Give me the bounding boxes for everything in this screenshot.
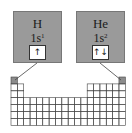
- table-cell: [87, 98, 93, 105]
- table-cell: [62, 118, 68, 125]
- table-cell: [106, 112, 112, 119]
- table-cell: [43, 112, 49, 119]
- table-cell: [81, 118, 87, 125]
- table-cell: [17, 112, 23, 119]
- table-cell: [94, 118, 100, 125]
- table-cell: [55, 105, 61, 112]
- table-cell: [68, 112, 74, 119]
- table-cell: [94, 112, 100, 119]
- table-cell: [113, 112, 119, 119]
- table-cell: [87, 84, 93, 91]
- table-cell: [49, 118, 55, 125]
- table-cell: [62, 112, 68, 119]
- table-cell: [30, 112, 36, 119]
- table-cell: [11, 91, 17, 98]
- table-cell: [68, 98, 74, 105]
- table-cell: [100, 118, 106, 125]
- table-cell: [49, 112, 55, 119]
- cell-he: [119, 77, 125, 84]
- table-cell: [55, 112, 61, 119]
- table-cell: [11, 118, 17, 125]
- table-cell: [36, 105, 42, 112]
- table-cell: [75, 112, 81, 119]
- table-cell: [119, 98, 125, 105]
- table-cell: [81, 105, 87, 112]
- table-cell: [11, 112, 17, 119]
- table-cell: [24, 98, 30, 105]
- table-cell: [30, 98, 36, 105]
- table-cell: [100, 105, 106, 112]
- table-cell: [36, 118, 42, 125]
- table-cell: [49, 98, 55, 105]
- table-cell: [106, 98, 112, 105]
- table-cell: [106, 84, 112, 91]
- table-cell: [100, 91, 106, 98]
- table-cell: [62, 98, 68, 105]
- table-cell: [17, 84, 23, 91]
- table-cell: [87, 118, 93, 125]
- table-cell: [55, 98, 61, 105]
- table-cell: [11, 105, 17, 112]
- table-cell: [119, 105, 125, 112]
- table-cell: [119, 112, 125, 119]
- table-cell: [75, 105, 81, 112]
- table-cell: [62, 105, 68, 112]
- table-cell: [68, 118, 74, 125]
- table-cell: [113, 84, 119, 91]
- table-cell: [94, 98, 100, 105]
- pointer-line-h: [15, 63, 37, 80]
- table-cell: [43, 105, 49, 112]
- table-cell: [113, 98, 119, 105]
- pointer-line-he: [100, 63, 121, 80]
- table-cell: [43, 98, 49, 105]
- periodic-table-grid: [0, 0, 132, 133]
- table-cell: [119, 91, 125, 98]
- table-cell: [94, 105, 100, 112]
- table-cell: [49, 105, 55, 112]
- table-cell: [113, 91, 119, 98]
- table-cell: [17, 105, 23, 112]
- table-cell: [43, 118, 49, 125]
- table-cell: [68, 105, 74, 112]
- table-cell: [75, 98, 81, 105]
- table-cell: [100, 84, 106, 91]
- table-cell: [17, 91, 23, 98]
- table-cell: [113, 105, 119, 112]
- table-cell: [119, 118, 125, 125]
- table-cell: [106, 118, 112, 125]
- table-cell: [36, 98, 42, 105]
- table-cell: [24, 118, 30, 125]
- table-cell: [17, 118, 23, 125]
- table-cell: [100, 98, 106, 105]
- table-cell: [17, 98, 23, 105]
- table-cell: [24, 105, 30, 112]
- table-cell: [11, 98, 17, 105]
- table-cell: [100, 112, 106, 119]
- table-cell: [24, 112, 30, 119]
- table-cell: [113, 118, 119, 125]
- table-cell: [30, 118, 36, 125]
- table-cell: [106, 105, 112, 112]
- table-cell: [94, 84, 100, 91]
- table-cell: [87, 112, 93, 119]
- cell-h: [11, 77, 17, 84]
- table-cell: [94, 91, 100, 98]
- table-cell: [81, 112, 87, 119]
- table-cell: [30, 105, 36, 112]
- table-cell: [11, 84, 17, 91]
- table-cell: [55, 118, 61, 125]
- table-cell: [119, 84, 125, 91]
- table-cell: [81, 98, 87, 105]
- table-cell: [87, 105, 93, 112]
- table-cell: [106, 91, 112, 98]
- table-cell: [75, 118, 81, 125]
- table-cell: [36, 112, 42, 119]
- table-cell: [87, 91, 93, 98]
